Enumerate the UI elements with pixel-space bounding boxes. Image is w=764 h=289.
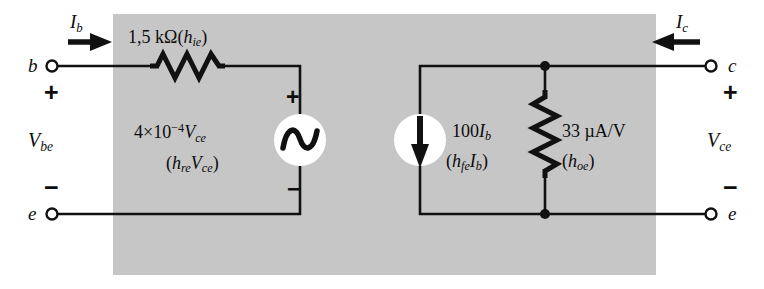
voltage-source-value-label: 4×10−4Vce: [134, 122, 206, 144]
terminal-node-emitter-right: [706, 209, 717, 220]
output-port-voltage-label: Vce: [707, 130, 731, 153]
current-source-parameter-label: (hfeIb): [446, 152, 488, 173]
input-polarity-plus: +: [44, 80, 59, 105]
terminal-label-collector: c: [728, 56, 736, 75]
voltage-source-minus: −: [287, 178, 300, 201]
output-current-label: Ic: [676, 12, 688, 35]
figure-canvas: Ib Ic b e c e + Vbe − + Vce − 1,5 kΩ(hie…: [0, 0, 764, 289]
terminal-node-base: [47, 61, 58, 72]
output-polarity-plus: +: [723, 80, 738, 105]
output-polarity-minus: −: [723, 175, 738, 200]
resistor-hie-zigzag: [150, 54, 225, 78]
terminal-node-collector: [706, 61, 717, 72]
input-current-label: Ib: [70, 12, 83, 35]
terminal-label-emitter-left: e: [28, 204, 36, 223]
input-port-voltage-label: Vbe: [28, 130, 53, 153]
resistor-hoe-zigzag: [533, 90, 557, 178]
voltage-source-plus: +: [286, 86, 299, 109]
output-conductance-parameter-label: (hoe): [562, 152, 595, 173]
input-current-arrow-head: [90, 33, 112, 51]
voltage-source-parameter-label: (hreVce): [166, 154, 219, 175]
terminal-node-emitter-left: [47, 209, 58, 220]
current-source-value-label: 100Ib: [452, 122, 491, 143]
output-current-arrow-head: [652, 33, 674, 51]
input-polarity-minus: −: [44, 175, 59, 200]
output-conductance-value-label: 33 µA/V: [562, 122, 626, 140]
terminal-label-base: b: [28, 56, 38, 75]
input-resistance-label: 1,5 kΩ(hie): [128, 28, 207, 49]
terminal-label-emitter-right: e: [728, 204, 736, 223]
circuit-schematic: [0, 0, 764, 289]
